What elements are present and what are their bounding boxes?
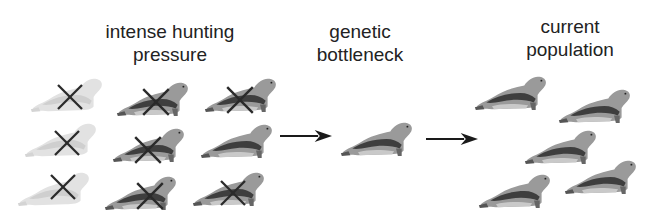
- label-line: genetic: [310, 20, 410, 43]
- seal-bottleneck-icon: [338, 120, 416, 158]
- seal-survivor-icon: [198, 122, 276, 160]
- cross-icon: [48, 172, 78, 202]
- cross-icon: [218, 178, 248, 208]
- arrow-right-icon: [280, 129, 332, 143]
- seal-icon: [562, 158, 640, 196]
- label-line: current: [510, 15, 630, 38]
- label-line: bottleneck: [310, 43, 410, 66]
- cross-icon: [140, 86, 172, 118]
- label-intense-hunting-pressure: intense hunting pressure: [95, 20, 245, 66]
- cross-icon: [55, 82, 85, 112]
- seal-icon: [556, 87, 634, 125]
- seal-icon: [476, 172, 554, 210]
- arrow-right-icon: [426, 132, 478, 146]
- cross-icon: [134, 180, 166, 212]
- label-line: population: [510, 38, 630, 61]
- label-genetic-bottleneck: genetic bottleneck: [310, 20, 410, 66]
- cross-icon: [224, 84, 256, 116]
- cross-icon: [132, 134, 164, 166]
- label-line: intense hunting: [95, 20, 245, 43]
- seal-icon: [472, 74, 550, 112]
- label-line: pressure: [95, 43, 245, 66]
- cross-icon: [52, 128, 82, 158]
- label-current-population: current population: [510, 15, 630, 61]
